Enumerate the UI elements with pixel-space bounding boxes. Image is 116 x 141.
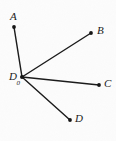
- point-label-d: D: [75, 113, 83, 124]
- point-dot-d: [68, 118, 72, 122]
- point-dot-a: [12, 25, 16, 29]
- rays-group: [14, 27, 99, 120]
- point-dot-b: [89, 31, 93, 35]
- point-label-c: C: [104, 78, 111, 89]
- vertex-label-subscript: 0: [16, 79, 20, 87]
- ray-segment-d: [22, 77, 70, 120]
- point-dot-c: [97, 83, 101, 87]
- vertex-label-d0: D0: [9, 71, 20, 85]
- vertex-dot-d0: [20, 75, 24, 79]
- geometry-figure: ABCDD0: [0, 0, 116, 141]
- point-label-a: A: [10, 11, 17, 22]
- ray-segment-b: [22, 33, 91, 77]
- ray-segment-c: [22, 77, 99, 85]
- point-label-b: B: [97, 25, 104, 36]
